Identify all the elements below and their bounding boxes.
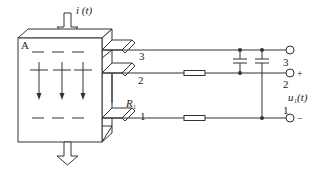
terminal-label-1: 1 (283, 104, 289, 116)
capacitor-3-1 (255, 50, 269, 118)
circuit-diagram: i (t) A 3 2 1 R 1 3 2 1 + − u 1 (t) (0, 0, 322, 172)
current-label: i (t) (76, 4, 93, 17)
terminal-label-3: 3 (283, 56, 289, 68)
tab-label-3: 3 (139, 50, 145, 62)
resistor-1 (184, 116, 205, 121)
tab-label-1: 1 (140, 110, 146, 122)
output-voltage-arg: (t) (297, 91, 308, 104)
block-front-face (18, 38, 102, 142)
output-current-arrow (57, 142, 78, 165)
minus-sign: − (297, 113, 303, 124)
block-top-face (18, 29, 112, 38)
terminal-2 (286, 69, 294, 77)
resistor-2 (184, 71, 205, 76)
plus-sign: + (297, 68, 303, 79)
tab-label-2: 2 (138, 74, 144, 86)
terminal-3 (286, 46, 294, 54)
resistor-subscript: 1 (133, 104, 136, 110)
terminal-label-2: 2 (283, 78, 289, 90)
block-label: A (21, 39, 29, 51)
capacitor-3-2 (233, 50, 247, 73)
resistor-label: R (125, 97, 133, 109)
